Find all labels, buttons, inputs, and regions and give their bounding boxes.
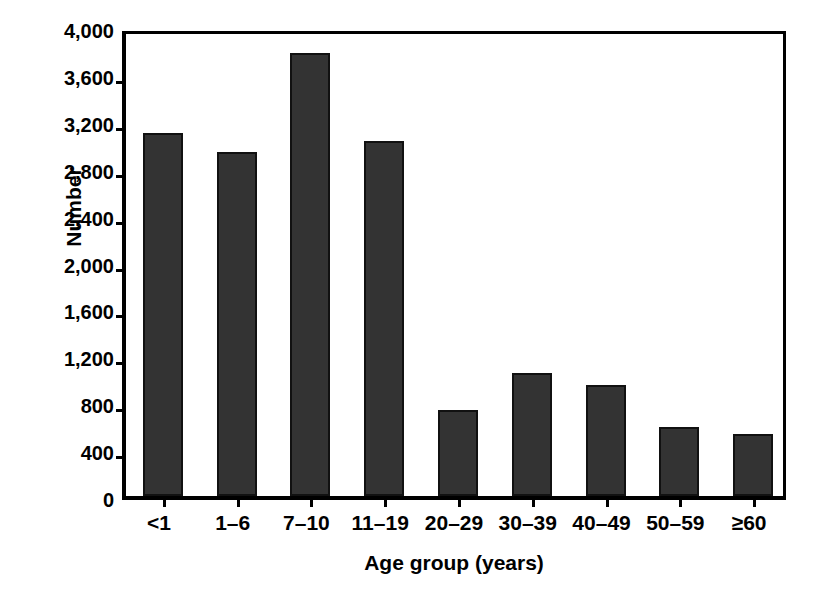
x-axis-tick-label: ≥60 xyxy=(704,511,794,535)
bar xyxy=(364,141,404,496)
x-axis-tick-mark xyxy=(310,496,313,507)
y-axis-tick-label: 2,400 xyxy=(14,207,114,230)
y-axis-tick-mark xyxy=(116,456,126,459)
y-axis-tick-label: 2,000 xyxy=(14,254,114,277)
y-axis-tick-label: 4,000 xyxy=(14,20,114,43)
bar xyxy=(733,434,773,496)
y-axis-tick-labels: 4,0003,6003,2002,8002,4002,0001,6001,200… xyxy=(8,0,114,590)
y-axis-tick-mark xyxy=(116,222,126,225)
x-axis-tick-mark xyxy=(163,496,166,507)
bar xyxy=(217,152,257,496)
x-axis-tick-mark xyxy=(237,496,240,507)
y-axis-tick-label: 400 xyxy=(14,442,114,465)
y-axis-tick-mark xyxy=(116,409,126,412)
x-axis-tick-mark xyxy=(532,496,535,507)
bar xyxy=(512,373,552,496)
bar xyxy=(659,427,699,496)
x-axis-tick-mark xyxy=(458,496,461,507)
y-axis-tick-mark xyxy=(116,269,126,272)
y-axis-tick-label: 800 xyxy=(14,395,114,418)
bar xyxy=(586,385,626,496)
x-axis-title: Age group (years) xyxy=(122,551,786,575)
bar xyxy=(438,410,478,496)
x-axis-tick-mark xyxy=(679,496,682,507)
y-axis-tick-mark xyxy=(116,81,126,84)
y-axis-tick-mark xyxy=(116,315,126,318)
x-axis-tick-mark xyxy=(753,496,756,507)
y-axis-tick-label: 1,600 xyxy=(14,301,114,324)
y-axis-tick-label: 3,200 xyxy=(14,113,114,136)
y-axis-tick-label: 0 xyxy=(14,489,114,512)
x-axis-tick-mark xyxy=(384,496,387,507)
y-axis-tick-label: 1,200 xyxy=(14,348,114,371)
bar-chart-figure: Number 4,0003,6003,2002,8002,4002,0001,6… xyxy=(0,0,815,590)
y-axis-tick-label: 3,600 xyxy=(14,66,114,89)
y-axis-tick-label: 2,800 xyxy=(14,160,114,183)
y-axis-tick-mark xyxy=(116,362,126,365)
y-axis-tick-mark xyxy=(116,175,126,178)
y-axis-tick-mark xyxy=(116,128,126,131)
bar xyxy=(290,53,330,496)
x-axis-tick-mark xyxy=(606,496,609,507)
plot-area xyxy=(122,31,786,500)
bar xyxy=(143,133,183,496)
